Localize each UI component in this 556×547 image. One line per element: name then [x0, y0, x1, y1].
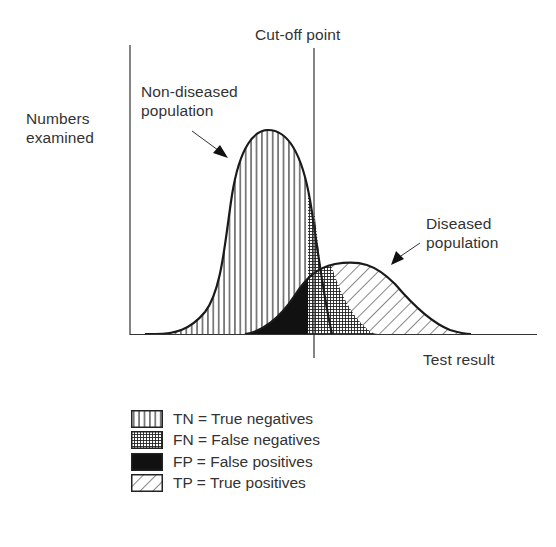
non-diseased-label: Non-diseased population	[141, 82, 238, 120]
diseased-arrow	[391, 243, 420, 265]
legend-label-tp: TP = True positives	[173, 474, 306, 492]
legend-item-fn: FN = False negatives	[131, 430, 320, 452]
legend-label-tn: TN = True negatives	[173, 410, 313, 428]
x-axis-label: Test result	[423, 350, 495, 369]
non-diseased-label-line2: population	[141, 101, 238, 120]
diseased-label-line1: Diseased	[426, 214, 499, 233]
non-diseased-label-line1: Non-diseased	[141, 82, 238, 101]
cutoff-label: Cut-off point	[255, 25, 340, 44]
legend: TN = True negatives FN = False negatives…	[131, 408, 320, 494]
vertical-lines-swatch-icon	[131, 410, 163, 428]
non-diseased-arrow	[192, 131, 228, 158]
legend-item-fp: FP = False positives	[131, 451, 320, 473]
legend-label-fp: FP = False positives	[173, 453, 313, 471]
diagonal-lines-swatch-icon	[131, 474, 163, 492]
y-axis-label: Numbers examined	[26, 109, 94, 147]
solid-black-swatch-icon	[131, 453, 163, 471]
legend-label-fn: FN = False negatives	[173, 431, 320, 449]
diseased-label-line2: population	[426, 233, 499, 252]
diseased-label: Diseased population	[426, 214, 499, 252]
y-axis-label-line1: Numbers	[26, 109, 94, 128]
legend-item-tn: TN = True negatives	[131, 408, 320, 430]
grid-swatch-icon	[131, 431, 163, 449]
y-axis-label-line2: examined	[26, 128, 94, 147]
legend-item-tp: TP = True positives	[131, 473, 320, 495]
